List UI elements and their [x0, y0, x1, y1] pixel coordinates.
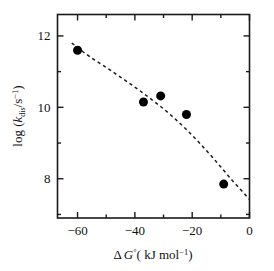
y-tick-label: 8 [44, 171, 51, 186]
scatter-plot-svg: −60−40−200 12108 ΔG°( kJ mol−1) log (kdi… [0, 0, 274, 271]
data-point [182, 110, 191, 119]
x-tick-label: −20 [182, 223, 202, 238]
x-tick-label: −60 [67, 223, 87, 238]
chart-figure: −60−40−200 12108 ΔG°( kJ mol−1) log (kdi… [0, 0, 274, 271]
x-tick-label: −40 [125, 223, 145, 238]
data-point [73, 46, 82, 55]
y-tick-label: 12 [38, 28, 51, 43]
data-point [219, 180, 228, 189]
y-tick-label: 10 [38, 100, 51, 115]
x-tick-label: 0 [246, 223, 253, 238]
data-point [156, 91, 165, 100]
data-point [139, 97, 148, 106]
